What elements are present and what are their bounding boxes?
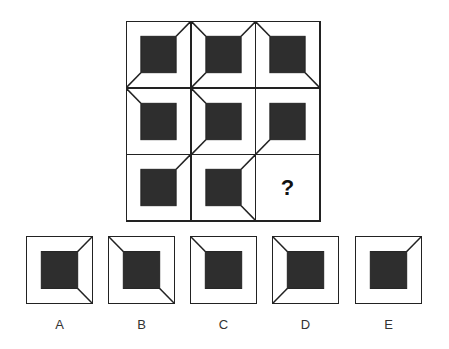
grid-cell-r3c1 bbox=[126, 154, 191, 221]
grid-cell-r2c3 bbox=[255, 88, 320, 155]
option-e[interactable] bbox=[355, 236, 422, 304]
figure-icon bbox=[192, 155, 255, 220]
figure-icon bbox=[109, 237, 174, 303]
option-b[interactable] bbox=[108, 236, 175, 304]
option-c[interactable] bbox=[190, 236, 257, 304]
missing-cell: ? bbox=[255, 154, 320, 221]
figure-icon bbox=[273, 237, 338, 303]
figure-icon bbox=[191, 237, 256, 303]
option-d[interactable] bbox=[272, 236, 339, 304]
puzzle-grid: ? bbox=[126, 21, 321, 222]
option-label-d: D bbox=[272, 317, 339, 332]
question-mark: ? bbox=[256, 155, 319, 220]
option-label-b: B bbox=[108, 317, 175, 332]
figure-icon bbox=[356, 237, 421, 303]
option-label-c: C bbox=[190, 317, 257, 332]
grid-cell-r3c2 bbox=[191, 154, 256, 221]
option-label-e: E bbox=[355, 317, 422, 332]
figure-icon bbox=[27, 237, 92, 303]
grid-cell-r2c2 bbox=[191, 88, 256, 155]
grid-cell-r2c1 bbox=[126, 88, 191, 155]
figure-icon bbox=[256, 22, 319, 87]
figure-icon bbox=[127, 22, 190, 87]
grid-cell-r1c3 bbox=[255, 21, 320, 88]
grid-cell-r1c1 bbox=[126, 21, 191, 88]
figure-icon bbox=[127, 155, 190, 220]
option-label-a: A bbox=[26, 317, 93, 332]
option-a[interactable] bbox=[26, 236, 93, 304]
figure-icon bbox=[192, 22, 255, 87]
figure-icon bbox=[127, 89, 190, 154]
grid-cell-r1c2 bbox=[191, 21, 256, 88]
figure-icon bbox=[256, 89, 319, 154]
figure-icon bbox=[192, 89, 255, 154]
